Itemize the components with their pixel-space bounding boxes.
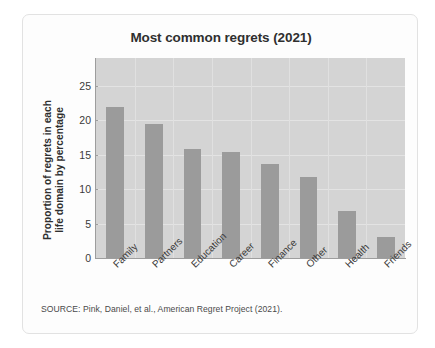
- y-axis-title-line-2: life domain by percentage: [54, 90, 66, 250]
- bar-series: [96, 58, 405, 258]
- y-tick-label: 10: [65, 183, 91, 195]
- y-tick-mark: [95, 120, 98, 121]
- y-axis-title-line-1: Proportion of regrets in each: [42, 90, 54, 250]
- y-tick-mark: [95, 258, 98, 259]
- y-tick-mark: [95, 86, 98, 87]
- y-tick-mark: [95, 224, 98, 225]
- chart-title: Most common regrets (2021): [23, 30, 419, 45]
- bar-finance: [261, 164, 279, 258]
- bar-family: [106, 107, 124, 258]
- plot-area: [96, 58, 405, 258]
- bar-partners: [145, 124, 163, 258]
- bar-career: [222, 152, 240, 258]
- y-tick-label: 0: [65, 252, 91, 264]
- y-axis-title: Proportion of regrets in each life domai…: [42, 90, 66, 250]
- bar-other: [300, 177, 318, 258]
- y-tick-mark: [95, 155, 98, 156]
- y-tick-label: 20: [65, 114, 91, 126]
- chart-card: Most common regrets (2021) 0510152025 Pr…: [22, 14, 418, 334]
- y-tick-label: 25: [65, 80, 91, 92]
- x-axis-labels: FamilyPartnersEducationCareerFinanceOthe…: [96, 260, 405, 310]
- y-axis-line: [95, 58, 96, 259]
- bar-education: [184, 149, 202, 258]
- source-note: SOURCE: Pink, Daniel, et al., American R…: [41, 304, 282, 314]
- y-tick-label: 15: [65, 149, 91, 161]
- y-tick-label: 5: [65, 218, 91, 230]
- y-tick-mark: [95, 189, 98, 190]
